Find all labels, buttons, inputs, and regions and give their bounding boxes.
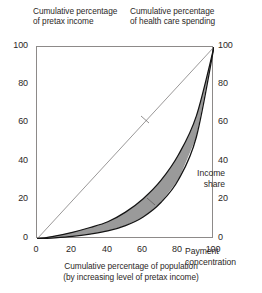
left-axis-title: Cumulative percentage of pretax income (33, 6, 129, 27)
y-left-tick-20: 20 (2, 194, 28, 203)
x-tick-100: 100 (198, 245, 228, 254)
x-tick-40: 40 (92, 245, 122, 254)
x-tick-80: 80 (162, 245, 192, 254)
lorenz-curve-figure: Cumulative percentage of pretax income C… (0, 0, 262, 293)
x-tick-60: 60 (127, 245, 157, 254)
y-left-tick-40: 40 (2, 156, 28, 165)
y-right-tick-20: 20 (218, 194, 246, 203)
y-left-tick-60: 60 (2, 117, 28, 126)
y-right-tick-100: 100 (218, 41, 246, 50)
y-right-tick-40: 40 (218, 156, 246, 165)
x-tick-20: 20 (56, 245, 86, 254)
y-right-tick-80: 80 (218, 79, 246, 88)
y-right-tick-60: 60 (218, 117, 246, 126)
y-left-tick-0: 0 (2, 233, 28, 242)
y-left-tick-80: 80 (2, 79, 28, 88)
x-tick-0: 0 (21, 245, 51, 254)
right-axis-title: Cumulative percentage of health care spe… (130, 6, 242, 27)
y-right-tick-0: 0 (218, 233, 246, 242)
plot-area: Income share Payment concentration (36, 46, 213, 238)
plot-canvas (37, 47, 214, 239)
x-axis-caption: Cumulative percentage of population (by … (0, 261, 262, 283)
y-left-tick-100: 100 (2, 41, 28, 50)
annotation-income-share: Income share (167, 168, 225, 189)
